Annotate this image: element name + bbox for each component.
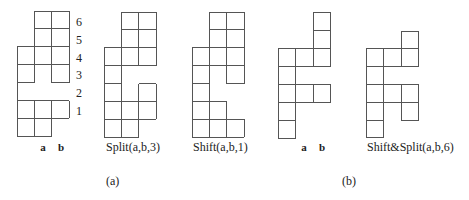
row-label-4: 4 — [76, 51, 82, 65]
column-label-a: a — [301, 141, 307, 153]
column-label-b: b — [319, 141, 325, 153]
row-label-6: 6 — [76, 15, 82, 29]
figure-original-a — [17, 11, 69, 136]
diagram-canvas: ab654321Split(a,b,3)Shift(a,b,1)abShift&… — [0, 0, 469, 200]
figure-split-a-b-3 — [104, 12, 156, 137]
figure-caption-split-a-b-3: Split(a,b,3) — [106, 140, 160, 154]
figure-shift-split-a-b-6 — [366, 31, 419, 138]
row-label-5: 5 — [76, 33, 82, 47]
row-label-2: 2 — [76, 86, 82, 100]
figure-shift-a-b-1 — [192, 12, 244, 137]
row-label-3: 3 — [76, 68, 82, 82]
column-label-b: b — [58, 141, 64, 153]
row-label-1: 1 — [76, 104, 82, 118]
figure-caption-shift-a-b-1: Shift(a,b,1) — [193, 140, 248, 154]
figure-caption-shift-split-a-b-6: Shift&Split(a,b,6) — [367, 140, 454, 154]
subfigure-caption-b: (b) — [342, 174, 356, 188]
column-label-a: a — [40, 141, 46, 153]
figure-original-b — [278, 12, 331, 138]
subfigure-caption-a: (a) — [106, 174, 119, 188]
grid-figures: ab654321Split(a,b,3)Shift(a,b,1)abShift&… — [0, 0, 469, 200]
